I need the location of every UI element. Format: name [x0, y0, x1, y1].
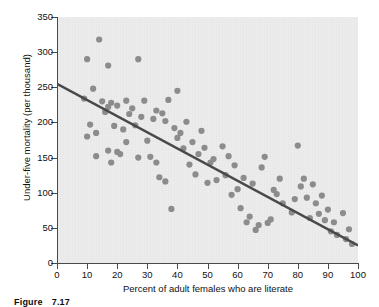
data-point [87, 121, 93, 127]
x-tick-label: 90 [315, 270, 341, 280]
data-point [135, 154, 141, 160]
data-point [144, 138, 150, 144]
data-point [319, 192, 325, 198]
data-point [262, 154, 268, 160]
data-point [231, 162, 237, 168]
data-point [96, 36, 102, 42]
x-tick-label: 0 [44, 270, 70, 280]
data-point [90, 86, 96, 92]
data-point [213, 177, 219, 183]
y-tick-label: 300 [29, 47, 53, 57]
data-point [147, 154, 153, 160]
data-point [93, 153, 99, 159]
data-point [189, 139, 195, 145]
data-point [292, 196, 298, 202]
data-point [340, 210, 346, 216]
data-point [171, 125, 177, 131]
y-tick-label: 50 [29, 223, 53, 233]
x-tick-label: 60 [225, 270, 251, 280]
data-point [274, 191, 280, 197]
data-point [219, 143, 225, 149]
scatter-points-group [81, 36, 355, 247]
y-tick-label: 350 [29, 12, 53, 22]
data-point [84, 133, 90, 139]
data-point [268, 216, 274, 222]
data-point [150, 116, 156, 122]
data-point [322, 217, 328, 223]
y-tick-label: 100 [29, 188, 53, 198]
data-point [123, 139, 129, 145]
data-point [129, 105, 135, 111]
data-point [277, 176, 283, 182]
data-point [165, 97, 171, 103]
data-point [111, 123, 117, 129]
data-point [105, 147, 111, 153]
data-point [168, 206, 174, 212]
data-point [192, 171, 198, 177]
y-tick-label: 250 [29, 82, 53, 92]
data-point [117, 151, 123, 157]
data-point [201, 145, 207, 151]
data-point [195, 151, 201, 157]
y-tick-label: 0 [29, 258, 53, 268]
data-point [295, 143, 301, 149]
data-point [298, 183, 304, 189]
data-point [141, 98, 147, 104]
data-point [153, 159, 159, 165]
data-point [105, 62, 111, 68]
data-point [123, 98, 129, 104]
figure-caption-label: Figure [14, 297, 43, 307]
data-point [99, 98, 105, 104]
data-point [241, 175, 247, 181]
data-point [84, 56, 90, 62]
figure-caption: Figure7.17 [14, 297, 70, 307]
data-point [247, 214, 253, 220]
data-point [259, 164, 265, 170]
plot-area [57, 17, 358, 263]
data-point [331, 219, 337, 225]
trend-line [57, 84, 358, 246]
data-point [120, 126, 126, 132]
data-point [301, 176, 307, 182]
data-point [174, 88, 180, 94]
data-point [225, 153, 231, 159]
data-point [235, 186, 241, 192]
y-axis-title: Under-five mortality (per thousand) [21, 28, 32, 228]
data-point [162, 178, 168, 184]
data-point [177, 130, 183, 136]
data-point [108, 100, 114, 106]
data-point [93, 130, 99, 136]
data-point [126, 111, 132, 117]
data-point [256, 222, 262, 228]
data-point [114, 102, 120, 108]
data-point [159, 110, 165, 116]
data-point [186, 162, 192, 168]
x-tick-label: 100 [345, 270, 371, 280]
data-point [183, 119, 189, 125]
figure-caption-number: 7.17 [52, 297, 70, 307]
data-point [210, 156, 216, 162]
y-axis-line [57, 17, 58, 264]
plot-canvas [57, 17, 358, 263]
data-point [313, 200, 319, 206]
data-point [228, 192, 234, 198]
x-tick-label: 40 [164, 270, 190, 280]
data-point [198, 128, 204, 134]
data-point [153, 107, 159, 113]
y-tick-label: 200 [29, 117, 53, 127]
data-point [304, 195, 310, 201]
x-tick-label: 70 [255, 270, 281, 280]
data-point [250, 180, 256, 186]
data-point [346, 226, 352, 232]
x-axis-title: Percent of adult females who are literat… [57, 283, 359, 294]
x-tick-label: 20 [104, 270, 130, 280]
data-point [204, 180, 210, 186]
data-point [138, 114, 144, 120]
data-point [244, 219, 250, 225]
data-point [135, 56, 141, 62]
data-point [238, 205, 244, 211]
x-tick-label: 30 [134, 270, 160, 280]
data-point [108, 159, 114, 165]
data-point [156, 174, 162, 180]
